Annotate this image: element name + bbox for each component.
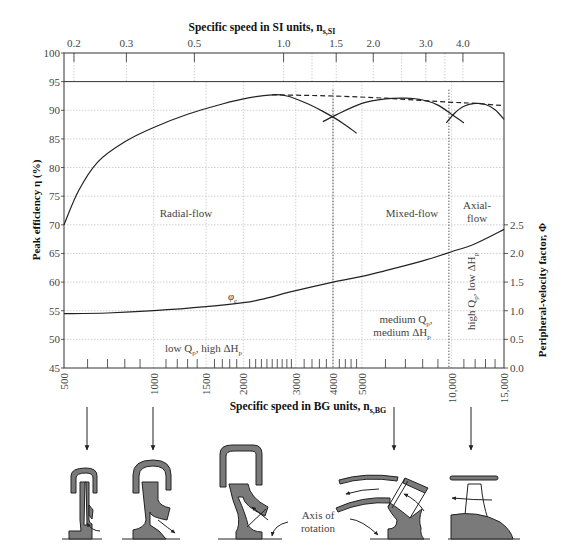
- chart-figure: Specific speed in SI units, ns,SI 100959…: [0, 0, 566, 552]
- si-tick-label: 1.5: [329, 37, 343, 49]
- left-tick-label: 80: [49, 162, 61, 174]
- series-curve: [64, 229, 504, 313]
- radial-flow-label: Radial-flow: [160, 207, 213, 219]
- si-tick-label: 0.3: [120, 37, 134, 49]
- left-tick-label: 70: [49, 219, 61, 231]
- curves: [64, 95, 504, 314]
- axis-of-label: Axis of: [302, 509, 335, 521]
- si-tick-label: 3.0: [419, 37, 433, 49]
- right-tick-label: 1.5: [510, 276, 524, 288]
- axis-ticks: [61, 53, 508, 368]
- impeller-francis-icon: [218, 445, 288, 539]
- impeller-mixed-flow-icon: [336, 475, 430, 539]
- top-axis-title: Specific speed in SI units, ns,SI: [189, 21, 336, 36]
- left-tick-label: 95: [49, 76, 61, 88]
- bg-tick-label: 1500: [200, 373, 212, 396]
- axis-labels: 10095908580757065605550452.52.01.51.00.5…: [44, 37, 525, 403]
- si-tick-label: 2.0: [366, 37, 380, 49]
- phi-e-label: φe: [228, 290, 237, 305]
- bg-tick-label: 2000: [237, 373, 249, 396]
- left-tick-label: 100: [44, 47, 61, 59]
- medium-h-label: medium ΔHp: [373, 326, 431, 341]
- right-tick-label: 1.0: [510, 305, 524, 317]
- left-tick-label: 55: [49, 305, 61, 317]
- left-tick-label: 85: [49, 133, 61, 145]
- high-q-label: high Qp, low ΔHp: [465, 252, 480, 330]
- bg-tick-label: 5000: [356, 373, 368, 396]
- right-axis-title: Peripheral-velocity factor, Φ: [536, 223, 548, 357]
- impeller-radial-wide-icon: [122, 460, 180, 539]
- bg-tick-label: 4000: [327, 373, 339, 396]
- axial-flow-label-1: Axial-: [463, 199, 491, 211]
- left-tick-label: 75: [49, 190, 61, 202]
- bg-tick-label: 500: [58, 373, 70, 390]
- si-tick-label: 0.5: [188, 37, 202, 49]
- impeller-axial-icon: [448, 476, 520, 539]
- left-tick-label: 45: [49, 362, 61, 374]
- left-tick-label: 65: [49, 247, 61, 259]
- bg-tick-label: 3000: [290, 373, 302, 396]
- pointer-arrows: [87, 407, 471, 450]
- low-q-label: low Qp, high ΔHp: [165, 342, 243, 357]
- series-curve: [446, 103, 504, 123]
- left-tick-label: 50: [49, 333, 61, 345]
- right-tick-label: 2.0: [510, 247, 524, 259]
- right-tick-label: 0.5: [510, 333, 524, 345]
- bg-tick-label: 10,000: [446, 373, 458, 404]
- si-tick-label: 0.2: [67, 37, 81, 49]
- impeller-radial-narrow-icon: [62, 468, 102, 539]
- left-tick-label: 90: [49, 104, 61, 116]
- si-tick-label: 4.0: [456, 37, 470, 49]
- left-tick-label: 60: [49, 276, 61, 288]
- mixed-flow-label: Mixed-flow: [386, 207, 439, 219]
- series-curve: [64, 95, 357, 225]
- right-tick-label: 0.0: [510, 362, 524, 374]
- bg-tick-label: 1000: [148, 373, 160, 396]
- bg-tick-label: 15,000: [498, 373, 510, 404]
- left-axis-title: Peak efficiency η (%): [30, 159, 43, 260]
- si-tick-label: 1.0: [277, 37, 291, 49]
- axial-flow-label-2: flow: [467, 212, 487, 224]
- bottom-axis-title: Specific speed in BG units, ns,BG: [230, 400, 387, 415]
- rotation-label: rotation: [301, 522, 336, 534]
- right-tick-label: 2.5: [510, 219, 524, 231]
